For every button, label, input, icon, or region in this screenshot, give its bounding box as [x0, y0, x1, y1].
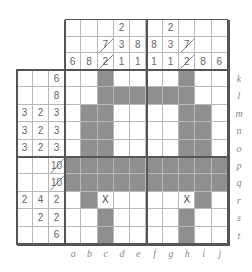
grid-cell-dp[interactable]	[114, 157, 130, 174]
grid-cell-br[interactable]	[81, 192, 97, 209]
grid-cell-ft[interactable]	[147, 227, 163, 244]
grid-cell-bk[interactable]	[81, 70, 97, 87]
grid-cell-bs[interactable]	[81, 209, 97, 226]
grid-cell-cn[interactable]	[98, 122, 114, 139]
grid-cell-el[interactable]	[130, 87, 146, 104]
grid-cell-ip[interactable]	[195, 157, 211, 174]
grid-cell-jm[interactable]	[212, 105, 228, 122]
grid-cell-bn[interactable]	[81, 122, 97, 139]
grid-cell-ep[interactable]	[130, 157, 146, 174]
grid-cell-fm[interactable]	[147, 105, 163, 122]
grid-cell-iq[interactable]	[195, 174, 211, 191]
grid-cell-fr[interactable]	[147, 192, 163, 209]
grid-cell-fo[interactable]	[147, 140, 163, 157]
grid-cell-im[interactable]	[195, 105, 211, 122]
grid-cell-ds[interactable]	[114, 209, 130, 226]
grid-cell-em[interactable]	[130, 105, 146, 122]
grid-cell-ao[interactable]	[65, 140, 81, 157]
grid-cell-go[interactable]	[163, 140, 179, 157]
grid-cell-cp[interactable]	[98, 157, 114, 174]
grid-cell-fq[interactable]	[147, 174, 163, 191]
grid-cell-ir[interactable]	[195, 192, 211, 209]
grid-cell-hq[interactable]	[179, 174, 195, 191]
grid-cell-dm[interactable]	[114, 105, 130, 122]
grid-cell-io[interactable]	[195, 140, 211, 157]
grid-cell-jq[interactable]	[212, 174, 228, 191]
grid-cell-cr[interactable]: X	[98, 192, 114, 209]
grid-cell-in[interactable]	[195, 122, 211, 139]
grid-cell-jt[interactable]	[212, 227, 228, 244]
grid-cell-eo[interactable]	[130, 140, 146, 157]
grid-cell-fp[interactable]	[147, 157, 163, 174]
grid-cell-bm[interactable]	[81, 105, 97, 122]
grid-cell-do[interactable]	[114, 140, 130, 157]
grid-cell-fs[interactable]	[147, 209, 163, 226]
grid-cell-al[interactable]	[65, 87, 81, 104]
grid-cell-hk[interactable]	[179, 70, 195, 87]
grid-cell-jo[interactable]	[212, 140, 228, 157]
grid-cell-dn[interactable]	[114, 122, 130, 139]
grid-cell-dl[interactable]	[114, 87, 130, 104]
grid-cell-hn[interactable]	[179, 122, 195, 139]
grid-cell-gs[interactable]	[163, 209, 179, 226]
grid-cell-gp[interactable]	[163, 157, 179, 174]
grid-cell-ek[interactable]	[130, 70, 146, 87]
grid-cell-gl[interactable]	[163, 87, 179, 104]
grid-cell-jl[interactable]	[212, 87, 228, 104]
grid-cell-hs[interactable]	[179, 209, 195, 226]
grid-cell-jn[interactable]	[212, 122, 228, 139]
grid-cell-es[interactable]	[130, 209, 146, 226]
grid-cell-fk[interactable]	[147, 70, 163, 87]
grid-cell-bl[interactable]	[81, 87, 97, 104]
grid-cell-aq[interactable]	[65, 174, 81, 191]
grid-cell-dk[interactable]	[114, 70, 130, 87]
grid-cell-fn[interactable]	[147, 122, 163, 139]
grid-cell-co[interactable]	[98, 140, 114, 157]
grid-cell-ap[interactable]	[65, 157, 81, 174]
grid-cell-cl[interactable]	[98, 87, 114, 104]
grid-cell-dt[interactable]	[114, 227, 130, 244]
grid-cell-il[interactable]	[195, 87, 211, 104]
grid-cell-dr[interactable]	[114, 192, 130, 209]
grid-cell-bo[interactable]	[81, 140, 97, 157]
grid-cell-bq[interactable]	[81, 174, 97, 191]
grid-cell-hm[interactable]	[179, 105, 195, 122]
grid-cell-am[interactable]	[65, 105, 81, 122]
grid-cell-gq[interactable]	[163, 174, 179, 191]
grid-cell-jr[interactable]	[212, 192, 228, 209]
grid-cell-dq[interactable]	[114, 174, 130, 191]
grid-cell-as[interactable]	[65, 209, 81, 226]
grid-cell-js[interactable]	[212, 209, 228, 226]
grid-cell-jp[interactable]	[212, 157, 228, 174]
grid-cell-en[interactable]	[130, 122, 146, 139]
grid-cell-er[interactable]	[130, 192, 146, 209]
grid-cell-gm[interactable]	[163, 105, 179, 122]
grid-cell-bp[interactable]	[81, 157, 97, 174]
grid-cell-et[interactable]	[130, 227, 146, 244]
grid-cell-ct[interactable]	[98, 227, 114, 244]
grid-cell-bt[interactable]	[81, 227, 97, 244]
grid-cell-ik[interactable]	[195, 70, 211, 87]
grid-cell-is[interactable]	[195, 209, 211, 226]
grid-cell-eq[interactable]	[130, 174, 146, 191]
grid-cell-gr[interactable]	[163, 192, 179, 209]
grid-cell-ak[interactable]	[65, 70, 81, 87]
grid-cell-ht[interactable]	[179, 227, 195, 244]
grid-cell-gt[interactable]	[163, 227, 179, 244]
grid-cell-cs[interactable]	[98, 209, 114, 226]
grid-cell-fl[interactable]	[147, 87, 163, 104]
grid-cell-hl[interactable]	[179, 87, 195, 104]
grid-cell-jk[interactable]	[212, 70, 228, 87]
grid-cell-gk[interactable]	[163, 70, 179, 87]
grid-cell-at[interactable]	[65, 227, 81, 244]
grid-cell-an[interactable]	[65, 122, 81, 139]
grid-cell-it[interactable]	[195, 227, 211, 244]
grid-cell-hp[interactable]	[179, 157, 195, 174]
grid-cell-hr[interactable]: X	[179, 192, 195, 209]
grid-cell-ar[interactable]	[65, 192, 81, 209]
grid-cell-gn[interactable]	[163, 122, 179, 139]
grid-cell-cm[interactable]	[98, 105, 114, 122]
grid-cell-cq[interactable]	[98, 174, 114, 191]
grid-cell-ck[interactable]	[98, 70, 114, 87]
grid-cell-ho[interactable]	[179, 140, 195, 157]
